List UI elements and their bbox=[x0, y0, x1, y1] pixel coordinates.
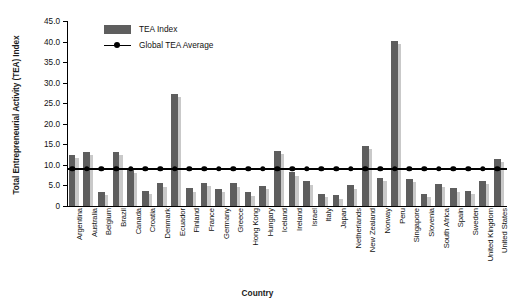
bar bbox=[259, 186, 266, 206]
bar-group bbox=[230, 183, 241, 206]
bar-shadow bbox=[178, 97, 182, 206]
bar-group bbox=[98, 192, 109, 206]
y-tick-mark bbox=[63, 165, 67, 166]
x-tick-label: Slovenia bbox=[427, 208, 436, 237]
bar-group bbox=[318, 194, 329, 206]
bar bbox=[421, 194, 428, 206]
bar-shadow bbox=[236, 187, 240, 206]
x-tick-label: Spain bbox=[456, 208, 465, 227]
bar-group bbox=[347, 185, 358, 206]
bar-group bbox=[83, 152, 94, 206]
average-marker-dot bbox=[421, 166, 426, 171]
average-marker-dot bbox=[231, 166, 236, 171]
average-marker-dot bbox=[187, 166, 192, 171]
bar-group bbox=[274, 151, 285, 206]
bar bbox=[83, 152, 90, 206]
average-marker-dot bbox=[436, 166, 441, 171]
bar-group bbox=[171, 94, 182, 206]
bar-group bbox=[215, 189, 226, 206]
bar-shadow bbox=[427, 197, 431, 206]
bar-shadow bbox=[266, 189, 270, 206]
bar-shadow bbox=[354, 189, 358, 206]
x-tick-label: Croatia bbox=[148, 208, 157, 232]
x-tick-label: Sweden bbox=[471, 208, 480, 235]
x-tick-label: Canada bbox=[134, 208, 143, 234]
chart-legend: TEA Index Global TEA Average bbox=[104, 22, 213, 54]
average-marker-dot bbox=[319, 166, 324, 171]
x-axis-title: Country bbox=[0, 288, 515, 298]
legend-line-marker-icon bbox=[114, 42, 120, 48]
bar bbox=[69, 155, 76, 206]
bar bbox=[465, 191, 472, 206]
average-marker-dot bbox=[289, 166, 294, 171]
bar bbox=[113, 152, 120, 206]
chart-container: Total Entrepreneurial Activity (TEA) Ind… bbox=[0, 0, 515, 308]
bar-shadow bbox=[163, 187, 167, 206]
x-tick-label: United States bbox=[500, 208, 509, 253]
bar-group bbox=[157, 183, 168, 206]
bar bbox=[245, 192, 252, 206]
y-tick-mark bbox=[63, 124, 67, 125]
x-tick-label: Denmark bbox=[163, 208, 172, 238]
bar-shadow bbox=[310, 185, 314, 206]
y-tick-mark bbox=[63, 185, 67, 186]
bar-shadow bbox=[280, 154, 284, 206]
y-tick-label: 5.0 bbox=[49, 181, 60, 190]
bar bbox=[347, 185, 354, 206]
legend-line-label: Global TEA Average bbox=[139, 40, 213, 50]
average-marker-dot bbox=[407, 166, 412, 171]
bar bbox=[303, 181, 310, 206]
x-tick-label: Argentina bbox=[75, 208, 84, 240]
x-tick-label: New Zealand bbox=[368, 208, 377, 252]
bar bbox=[450, 188, 457, 206]
bar bbox=[127, 170, 134, 206]
bar bbox=[406, 179, 413, 206]
bar bbox=[142, 191, 149, 206]
x-tick-label: Peru bbox=[398, 208, 407, 224]
bar-shadow bbox=[75, 158, 79, 206]
bar bbox=[215, 189, 222, 206]
x-tick-label: Netherlands bbox=[354, 208, 363, 248]
bar bbox=[289, 172, 296, 206]
bar bbox=[391, 41, 398, 206]
bar-shadow bbox=[251, 196, 255, 206]
average-marker-dot bbox=[245, 166, 250, 171]
x-tick-label: Hungary bbox=[266, 208, 275, 236]
bar-shadow bbox=[442, 187, 446, 206]
average-marker-dot bbox=[99, 166, 104, 171]
bar-shadow bbox=[456, 192, 460, 206]
y-tick-label: 45.0 bbox=[44, 17, 60, 26]
bar bbox=[435, 184, 442, 206]
y-tick-label: 10.0 bbox=[44, 160, 60, 169]
bar bbox=[230, 183, 237, 206]
average-marker-dot bbox=[480, 166, 485, 171]
bar-group bbox=[362, 146, 373, 206]
legend-line-swatch bbox=[104, 41, 131, 50]
bar-shadow bbox=[471, 194, 475, 206]
bar-group bbox=[127, 170, 138, 206]
y-tick-mark bbox=[63, 21, 67, 22]
bar-group bbox=[303, 181, 314, 206]
bar-shadow bbox=[90, 155, 94, 206]
average-marker-dot bbox=[333, 166, 338, 171]
average-marker-dot bbox=[201, 166, 206, 171]
x-tick-label: Ecuador bbox=[178, 208, 187, 236]
bar bbox=[479, 181, 486, 206]
y-tick-mark bbox=[63, 206, 67, 207]
y-tick-mark bbox=[63, 62, 67, 63]
x-tick-label: Singapore bbox=[412, 208, 421, 242]
y-tick-label: 30.0 bbox=[44, 78, 60, 87]
bar-shadow bbox=[134, 173, 138, 206]
bar-group bbox=[259, 186, 270, 206]
legend-item-global-average: Global TEA Average bbox=[104, 38, 213, 52]
average-marker-dot bbox=[260, 166, 265, 171]
bar-shadow bbox=[486, 184, 490, 206]
bar bbox=[333, 195, 340, 206]
y-tick-mark bbox=[63, 144, 67, 145]
x-axis-line bbox=[67, 206, 507, 207]
average-marker-dot bbox=[348, 166, 353, 171]
bar bbox=[171, 94, 178, 206]
average-marker-dot bbox=[377, 166, 382, 171]
legend-bar-swatch bbox=[104, 25, 131, 34]
average-marker-dot bbox=[304, 166, 309, 171]
